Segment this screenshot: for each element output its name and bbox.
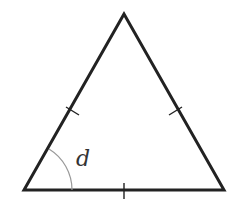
triangle-diagram: d — [0, 0, 242, 209]
equilateral-triangle — [24, 14, 224, 190]
angle-label: d — [76, 146, 90, 171]
angle-arc — [49, 149, 72, 190]
